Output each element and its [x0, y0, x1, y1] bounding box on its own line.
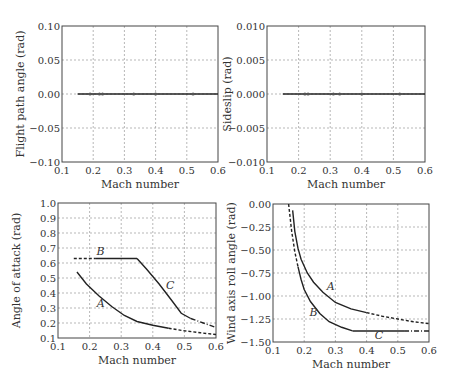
y-tick-label: −1.00 — [240, 291, 271, 302]
plot-area — [78, 92, 218, 95]
x-tick-label: 0.4 — [148, 165, 164, 176]
series-line-A-cont — [169, 328, 216, 334]
x-axis-label: Mach number — [307, 178, 386, 191]
curve-label-A: A — [96, 297, 105, 310]
data-marker — [360, 92, 363, 95]
y-axis-label: Flight path angle (rad) — [14, 31, 27, 158]
angle-of-attack-plot: 0.10.20.30.40.50.61.00.90.80.70.60.50.40… — [10, 198, 224, 368]
x-tick-label: 0.6 — [208, 341, 224, 352]
y-tick-label: 0.005 — [236, 55, 265, 66]
x-axis-label: Mach number — [101, 178, 180, 191]
y-tick-label: −0.75 — [240, 268, 271, 279]
data-marker — [306, 92, 309, 95]
series-line-A — [293, 210, 367, 312]
curve-label-C: C — [375, 329, 384, 342]
y-tick-label: 0.3 — [40, 303, 56, 314]
figure: 0.10.20.30.40.50.60.100.050.00−0.05−0.10… — [0, 0, 458, 392]
y-tick-label: 0.7 — [40, 243, 56, 254]
y-tick-label: 0.2 — [40, 318, 56, 329]
x-tick-label: 0.6 — [417, 165, 433, 176]
data-marker — [98, 92, 101, 95]
y-axis-label: Wind axis roll angle (rad) — [225, 202, 238, 344]
y-tick-label: 0.00 — [249, 199, 271, 210]
x-tick-label: 0.5 — [179, 165, 195, 176]
x-tick-label: 0.4 — [145, 341, 161, 352]
y-tick-label: 0.10 — [38, 21, 60, 32]
x-tick-label: 0.2 — [291, 165, 307, 176]
y-axis-label: Angle of attack (rad) — [10, 213, 23, 330]
y-tick-label: 0.4 — [40, 288, 56, 299]
x-tick-label: 0.3 — [322, 165, 338, 176]
x-axis-label: Mach number — [312, 358, 391, 371]
x-axis-label: Mach number — [98, 354, 177, 367]
data-marker — [132, 92, 135, 95]
y-tick-label: −0.05 — [29, 123, 60, 134]
y-tick-label: −0.010 — [228, 157, 265, 168]
series-line-C — [137, 259, 191, 319]
y-tick-label: 1.0 — [40, 198, 56, 209]
series-line-B-cont — [298, 267, 353, 331]
x-tick-label: 0.5 — [176, 341, 192, 352]
data-marker — [88, 92, 91, 95]
y-tick-label: 0.05 — [38, 55, 60, 66]
sideslip-plot: 0.10.20.30.40.50.60.0100.0050.000−0.005−… — [221, 21, 433, 192]
data-marker — [303, 92, 306, 95]
curve-label-B: B — [96, 245, 105, 258]
x-tick-label: 0.3 — [327, 345, 343, 356]
y-tick-label: 0.00 — [38, 89, 60, 100]
data-marker — [154, 92, 157, 95]
plot-area — [283, 92, 425, 95]
x-tick-label: 0.6 — [421, 345, 437, 356]
y-tick-label: 0.6 — [40, 258, 56, 269]
y-tick-label: −1.25 — [240, 314, 271, 325]
data-marker — [101, 92, 104, 95]
curve-label-A: A — [326, 280, 335, 293]
y-tick-label: −0.25 — [240, 222, 271, 233]
y-tick-label: −0.10 — [29, 157, 60, 168]
wind-axis-roll-angle-plot: 0.10.20.30.40.50.60.00−0.25−0.50−0.75−1.… — [225, 199, 437, 372]
curve-label-C: C — [166, 279, 175, 292]
x-tick-label: 0.2 — [85, 165, 101, 176]
x-tick-label: 0.5 — [390, 345, 406, 356]
data-marker — [398, 92, 401, 95]
x-tick-label: 0.3 — [116, 165, 132, 176]
y-tick-label: −1.50 — [240, 337, 271, 348]
plot-frame — [58, 203, 216, 338]
x-tick-label: 0.5 — [385, 165, 401, 176]
x-tick-label: 0.2 — [296, 345, 312, 356]
data-marker — [332, 92, 335, 95]
y-tick-label: −0.50 — [240, 245, 271, 256]
y-tick-label: 0.010 — [236, 21, 265, 32]
x-tick-label: 0.3 — [113, 341, 129, 352]
x-tick-label: 0.2 — [82, 341, 98, 352]
series-line-A — [77, 272, 169, 328]
data-marker — [191, 92, 194, 95]
data-marker — [338, 92, 341, 95]
y-tick-label: 0.000 — [236, 89, 265, 100]
y-tick-label: 0.5 — [40, 273, 56, 284]
curve-label-B: B — [309, 306, 318, 319]
y-tick-label: 0.8 — [40, 228, 56, 239]
flight-path-angle-plot: 0.10.20.30.40.50.60.100.050.00−0.05−0.10… — [14, 21, 226, 192]
y-axis-label: Sideslip (rad) — [221, 56, 234, 131]
x-tick-label: 0.4 — [354, 165, 370, 176]
x-tick-label: 0.4 — [359, 345, 375, 356]
y-tick-label: 0.1 — [40, 333, 56, 344]
x-tick-label: 0.6 — [210, 165, 226, 176]
y-tick-label: 0.9 — [40, 213, 56, 224]
